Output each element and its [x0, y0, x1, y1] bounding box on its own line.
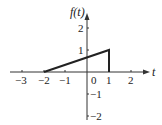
y-axis-arrow-icon — [85, 13, 90, 20]
x-tick-label: −3 — [15, 74, 27, 86]
x-tick-label: −2 — [38, 74, 50, 86]
function-curve — [44, 50, 109, 72]
x-axis-label: t — [152, 65, 156, 79]
function-plot: −3 −2 −1 0 1 2 2 1 −1 −2 f(t) t — [0, 0, 162, 125]
x-tick-label: −1 — [59, 74, 71, 86]
y-tick-label: 1 — [78, 44, 84, 56]
x-axis-arrow-icon — [143, 70, 150, 75]
x-tick-label: 1 — [106, 74, 112, 86]
y-axis-label: f(t) — [70, 5, 85, 19]
y-tick-label: −1 — [90, 88, 102, 100]
x-tick-label: 0 — [91, 74, 97, 86]
x-tick-label: 2 — [128, 74, 134, 86]
y-tick-label: 2 — [78, 22, 84, 34]
y-tick-label: −2 — [90, 110, 102, 122]
